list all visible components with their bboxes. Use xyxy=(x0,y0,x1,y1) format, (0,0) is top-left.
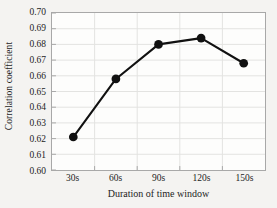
data-point-marker: 30s: 0.621 xyxy=(69,133,78,142)
x-axis-tick-label: 30s xyxy=(66,173,79,183)
x-axis-tick-label: 150s xyxy=(236,173,254,183)
plot-area: 30s: 0.62160s: 0.65890s: 0.68120s: 0.684… xyxy=(51,12,266,171)
y-axis-tick-label: 0.63 xyxy=(29,118,46,128)
data-series-line: 30s: 0.62160s: 0.65890s: 0.68120s: 0.684… xyxy=(52,13,265,170)
y-axis-tick-label: 0.61 xyxy=(29,150,46,160)
chart-container: Correlation coefficient 0.700.690.680.67… xyxy=(0,0,277,208)
data-point-marker: 150s: 0.668 xyxy=(239,59,248,68)
y-axis-tick-label: 0.66 xyxy=(29,71,46,81)
y-axis-tick-label: 0.68 xyxy=(29,39,46,49)
x-axis-tick-label: 60s xyxy=(109,173,122,183)
y-axis-tick-label: 0.67 xyxy=(29,55,46,65)
x-axis-tick-label: 90s xyxy=(152,173,165,183)
y-axis-tick-label: 0.65 xyxy=(29,87,46,97)
data-point-marker: 60s: 0.658 xyxy=(112,75,121,84)
y-axis-tick-label: 0.70 xyxy=(29,7,46,17)
data-point-marker: 90s: 0.68 xyxy=(154,40,163,49)
x-axis-tick-label: 120s xyxy=(193,173,211,183)
x-axis-tick-labels: 30s60s90s120s150s xyxy=(51,173,266,187)
x-axis-title: Duration of time window xyxy=(51,188,266,199)
y-axis-title-text: Correlation coefficient xyxy=(4,42,14,130)
y-axis-tick-labels: 0.700.690.680.670.660.650.640.630.620.61… xyxy=(16,0,49,184)
y-axis-tick-label: 0.62 xyxy=(29,134,46,144)
y-axis-tick-label: 0.60 xyxy=(29,166,46,176)
y-axis-tick-label: 0.69 xyxy=(29,23,46,33)
y-axis-tick-label: 0.64 xyxy=(29,102,46,112)
data-point-marker: 120s: 0.684 xyxy=(197,34,206,43)
series-polyline xyxy=(73,38,243,137)
